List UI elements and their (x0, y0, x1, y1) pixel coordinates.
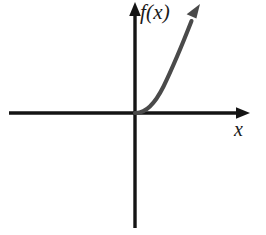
x-axis-label: x (234, 117, 243, 141)
function-curve (135, 21, 192, 113)
graph-figure: f(x) x (0, 0, 266, 235)
function-label: f(x) (140, 0, 170, 24)
graph-canvas (0, 0, 266, 235)
curve-arrowhead (187, 4, 200, 19)
